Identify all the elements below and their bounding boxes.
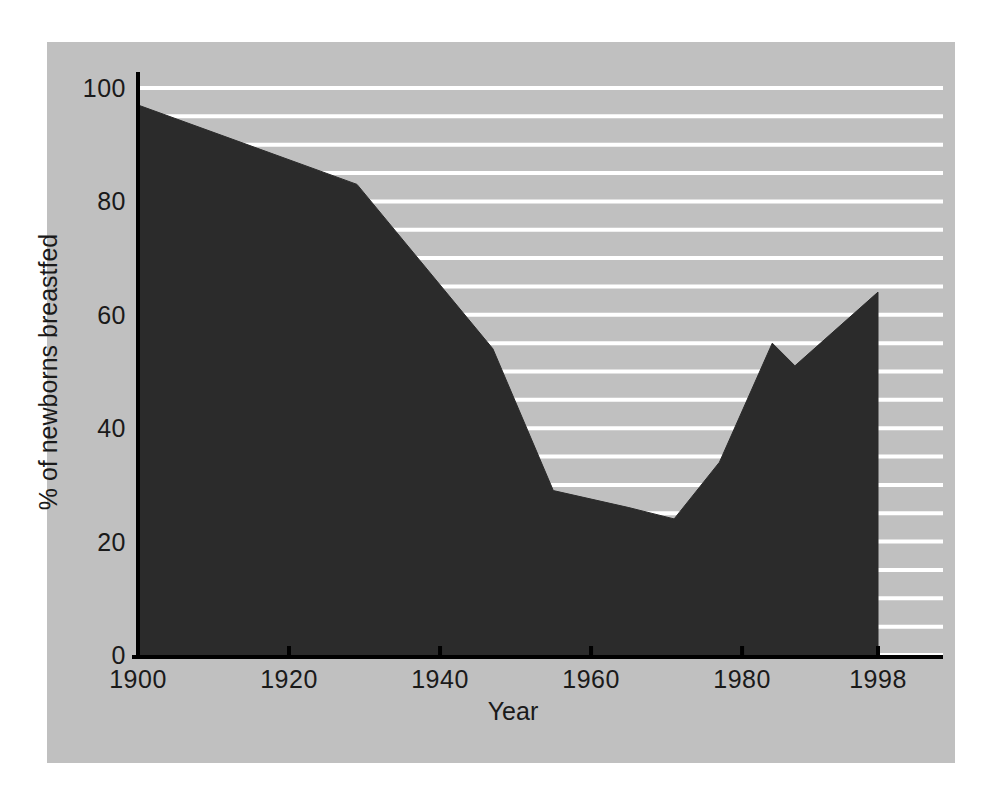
y-axis-tick-label: 100 (60, 74, 126, 103)
y-axis-tick-label: 80 (60, 187, 126, 216)
y-axis-tick-label: 60 (60, 300, 126, 329)
x-axis-tick-label: 1998 (849, 665, 907, 694)
x-axis-tick-label: 1940 (411, 665, 469, 694)
x-axis-title: Year (488, 697, 539, 726)
x-axis-tick-label: 1960 (562, 665, 620, 694)
y-axis-tick-label: 40 (60, 414, 126, 443)
y-axis-tick-label: 20 (60, 527, 126, 556)
x-axis-tick-label: 1920 (260, 665, 318, 694)
y-axis-title: % of newborns breastfed (34, 234, 63, 511)
area-series-fill (138, 105, 878, 655)
x-axis-tick-label: 1900 (109, 665, 167, 694)
x-axis-tick-label: 1980 (713, 665, 771, 694)
chart-figure: 020406080100 190019201940196019801998 % … (0, 0, 1006, 796)
